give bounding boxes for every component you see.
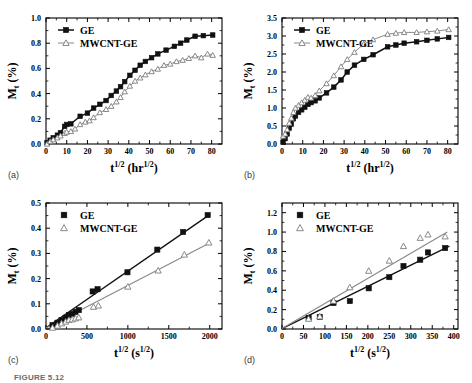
series-line bbox=[47, 35, 213, 143]
data-point-ge bbox=[181, 229, 186, 234]
series-line bbox=[283, 37, 449, 142]
legend-label-mwcnt: MWCNT-GE bbox=[80, 38, 138, 49]
data-point-ge bbox=[435, 37, 440, 42]
data-point-mwcnt bbox=[192, 53, 197, 58]
chart-panel-a: 010203040506070800.00.20.40.60.81.0GEMWC… bbox=[0, 0, 236, 185]
data-point-ge bbox=[90, 289, 95, 294]
y-tick-label: 0.4 bbox=[31, 90, 41, 99]
x-tick-label: 10 bbox=[299, 147, 307, 156]
legend-label-ge: GE bbox=[316, 25, 331, 36]
y-tick-label: 0.1 bbox=[31, 300, 41, 309]
y-tick-label: 2.5 bbox=[267, 50, 277, 59]
y-tick-label: 1.0 bbox=[267, 104, 277, 113]
data-point-ge bbox=[339, 78, 344, 83]
y-tick-label: 0.0 bbox=[31, 325, 41, 334]
x-tick-label: 20 bbox=[83, 147, 91, 156]
data-point-ge bbox=[78, 114, 83, 119]
panel-label: (d) bbox=[244, 355, 255, 365]
x-tick-label: 250 bbox=[383, 332, 395, 341]
svg-text:Mt (%): Mt (%) bbox=[5, 63, 21, 100]
x-tick-label: 0 bbox=[44, 332, 48, 341]
data-point-ge bbox=[414, 39, 419, 44]
y-tick-label: 0.2 bbox=[31, 115, 41, 124]
y-tick-label: 1.0 bbox=[31, 14, 41, 23]
y-tick-label: 0.3 bbox=[31, 249, 41, 258]
data-point-ge bbox=[443, 245, 448, 250]
data-point-ge bbox=[95, 287, 100, 292]
y-tick-label: 2.0 bbox=[267, 68, 277, 77]
figure-container: 010203040506070800.00.20.40.60.81.0GEMWC… bbox=[0, 0, 472, 383]
data-point-mwcnt bbox=[400, 243, 406, 249]
data-point-mwcnt bbox=[143, 72, 148, 77]
x-tick-label: 60 bbox=[166, 147, 174, 156]
chart-panel-c: 05001000150020000.00.10.20.30.40.5GEMWCN… bbox=[0, 185, 236, 370]
y-axis-title: Mt (%) bbox=[5, 63, 21, 100]
legend-marker-mwcnt bbox=[61, 225, 68, 231]
data-point-mwcnt bbox=[425, 231, 431, 237]
y-tick-label: 0.6 bbox=[267, 267, 277, 276]
x-tick-label: 300 bbox=[405, 332, 417, 341]
data-point-ge bbox=[172, 44, 177, 49]
data-point-ge bbox=[371, 52, 376, 57]
y-tick-label: 0.0 bbox=[267, 325, 277, 334]
fit-line bbox=[282, 232, 447, 328]
x-tick-label: 40 bbox=[361, 147, 369, 156]
plot-svg-a: 010203040506070800.00.20.40.60.81.0GEMWC… bbox=[0, 0, 236, 185]
y-tick-label: 0.8 bbox=[267, 247, 277, 256]
x-tick-label: 50 bbox=[299, 332, 307, 341]
data-point-ge bbox=[122, 79, 127, 84]
x-axis-title: t1/2 (hr1/2) bbox=[346, 160, 393, 175]
data-point-mwcnt bbox=[205, 51, 210, 56]
data-point-ge bbox=[91, 106, 96, 111]
legend-label-mwcnt: MWCNT-GE bbox=[80, 223, 138, 234]
x-tick-label: 0 bbox=[280, 147, 284, 156]
legend-marker-mwcnt bbox=[297, 225, 304, 231]
y-tick-label: 0.5 bbox=[267, 122, 277, 131]
data-point-mwcnt bbox=[417, 235, 423, 241]
y-tick-label: 1.0 bbox=[267, 228, 277, 237]
x-tick-label: 500 bbox=[81, 332, 93, 341]
data-point-ge bbox=[185, 38, 190, 43]
plot-svg-d: 0501001502002503003504000.00.20.40.60.81… bbox=[236, 185, 472, 370]
y-tick-label: 0.4 bbox=[267, 286, 277, 295]
data-point-mwcnt bbox=[181, 252, 187, 258]
x-tick-label: 150 bbox=[340, 332, 352, 341]
data-point-ge bbox=[402, 41, 407, 46]
x-tick-label: 80 bbox=[444, 147, 452, 156]
data-point-ge bbox=[85, 111, 90, 116]
svg-text:Mt (%): Mt (%) bbox=[241, 63, 257, 100]
data-point-mwcnt bbox=[77, 122, 82, 127]
x-tick-label: 200 bbox=[362, 332, 374, 341]
x-tick-label: 400 bbox=[448, 332, 460, 341]
data-point-ge bbox=[98, 102, 103, 107]
y-tick-label: 3.5 bbox=[267, 14, 277, 23]
data-point-ge bbox=[446, 35, 451, 40]
plot-svg-b: 010203040506070800.00.51.01.52.02.53.03.… bbox=[236, 0, 472, 185]
data-point-ge bbox=[387, 275, 392, 280]
plot-svg-c: 05001000150020000.00.10.20.30.40.5GEMWCN… bbox=[0, 185, 236, 370]
legend-marker-ge bbox=[61, 212, 67, 218]
data-point-mwcnt bbox=[97, 110, 102, 115]
data-point-ge bbox=[128, 73, 133, 78]
x-tick-label: 2000 bbox=[202, 332, 218, 341]
data-point-ge bbox=[401, 263, 406, 268]
data-point-ge bbox=[156, 52, 161, 57]
legend-marker-ge bbox=[297, 212, 303, 218]
x-tick-label: 10 bbox=[63, 147, 71, 156]
y-tick-label: 0.0 bbox=[267, 140, 277, 149]
data-point-ge bbox=[366, 286, 371, 291]
data-point-ge bbox=[418, 257, 423, 262]
data-point-mwcnt bbox=[138, 75, 143, 80]
y-tick-label: 0.8 bbox=[31, 39, 41, 48]
data-point-ge bbox=[118, 84, 123, 89]
chart-panel-b: 010203040506070800.00.51.01.52.02.53.03.… bbox=[236, 0, 472, 185]
data-point-ge bbox=[345, 70, 350, 75]
legend-marker-ge bbox=[63, 27, 68, 32]
figure-caption: FIGURE 5.12 bbox=[14, 373, 64, 382]
legend-label-ge: GE bbox=[316, 210, 331, 221]
x-axis-title: t1/2 (s1/2) bbox=[350, 345, 390, 360]
data-point-ge bbox=[125, 270, 130, 275]
x-tick-label: 70 bbox=[423, 147, 431, 156]
data-point-ge bbox=[143, 59, 148, 64]
x-tick-label: 1500 bbox=[161, 332, 177, 341]
